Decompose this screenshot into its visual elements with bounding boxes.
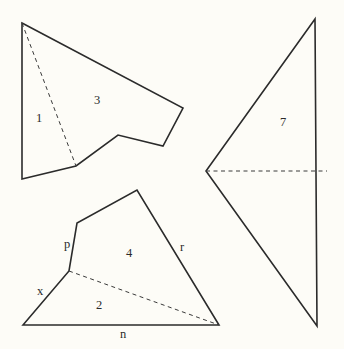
region-4-label: 4 xyxy=(126,246,133,260)
region-1-label: 1 xyxy=(36,111,42,125)
lower-left-polygon-outline xyxy=(23,190,219,325)
lower-left-dashed-diagonal xyxy=(69,271,219,325)
region-7-label: 7 xyxy=(280,115,286,129)
dissection-diagram: 1 3 4 2 p x n r 7 xyxy=(0,0,344,349)
lower-left-polygon: 4 2 p x n r xyxy=(23,190,219,341)
side-x-label: x xyxy=(37,284,44,298)
region-3-label: 3 xyxy=(94,93,100,107)
side-n-label: n xyxy=(120,327,127,341)
upper-left-polygon: 1 3 xyxy=(22,23,183,179)
right-triangle-outline xyxy=(206,19,317,326)
upper-left-dashed-diagonal xyxy=(22,23,76,166)
upper-left-polygon-outline xyxy=(22,23,183,179)
side-p-label: p xyxy=(64,237,70,251)
side-r-label: r xyxy=(180,240,185,254)
right-triangle: 7 xyxy=(206,19,327,326)
region-2-label: 2 xyxy=(96,298,102,312)
